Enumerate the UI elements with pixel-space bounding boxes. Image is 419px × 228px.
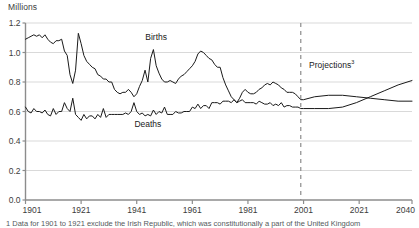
- y-axis-tick-label: 1.0: [9, 48, 21, 58]
- y-axis-tick-label: 0.6: [9, 107, 21, 117]
- series-line-births: [26, 33, 413, 102]
- y-axis-tick-label: 1.2: [9, 18, 21, 28]
- series-label-deaths: Deaths: [134, 119, 161, 129]
- x-axis-tick-label: 1941: [127, 205, 146, 215]
- x-axis-ticks-group: 19011921194119611981200120212040: [23, 200, 416, 215]
- x-axis-tick-label: 1901: [23, 205, 42, 215]
- x-axis-tick-label: 2021: [350, 205, 369, 215]
- line-chart-plot: 0.00.20.40.60.81.01.2 190119211941196119…: [0, 0, 419, 228]
- projections-annotation: Projections3: [309, 59, 354, 70]
- series-label-births: Births: [145, 32, 167, 42]
- x-axis-tick-label: 1981: [238, 205, 257, 215]
- x-axis-tick-label: 1921: [72, 205, 91, 215]
- y-axis-tick-label: 0.4: [9, 136, 21, 146]
- x-axis-tick-label: 1961: [183, 205, 202, 215]
- series-lines-group: [26, 33, 413, 120]
- projections-annotation-text: Projections: [309, 60, 351, 70]
- y-axis-tick-label: 0.8: [9, 77, 21, 87]
- chart-figure: Millions 0.00.20.40.60.81.01.2 190119211…: [0, 0, 419, 228]
- series-line-deaths: [26, 81, 413, 121]
- y-axis-ticks-group: 0.00.20.40.60.81.01.2: [9, 18, 26, 205]
- y-axis-tick-label: 0.0: [9, 195, 21, 205]
- y-axis-tick-label: 0.2: [9, 166, 21, 176]
- x-axis-tick-label: 2040: [396, 205, 415, 215]
- x-axis-tick-label: 2001: [294, 205, 313, 215]
- projections-annotation-superscript: 3: [351, 59, 354, 65]
- chart-footnote: 1 Data for 1901 to 1921 exclude the Iris…: [6, 219, 418, 228]
